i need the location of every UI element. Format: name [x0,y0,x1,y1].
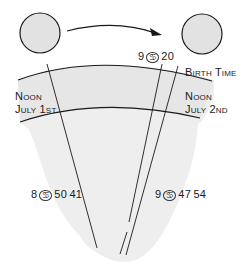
seconds-value: 41 [69,188,82,200]
position-july2-label: 9♋47 54 [155,188,206,201]
minutes-value: 20 [161,50,174,62]
noon-july1-label-line2: July 1st [15,103,56,115]
degree-value: 8 [31,188,37,200]
sun-motion-diagram [0,0,242,272]
birth-position-label: 9♋20 [138,50,174,63]
seconds-value: 54 [193,188,206,200]
noon-july2-label-line2: July 2nd [185,103,228,115]
noon-july2-label-line1: Noon [185,90,212,102]
sun-circle-left [20,13,60,53]
minutes-value: 50 [54,188,67,200]
position-july1-label: 8♋50 41 [31,188,82,201]
degree-value: 9 [138,50,144,62]
cancer-sign-icon: ♋ [146,52,159,63]
cancer-sign-icon: ♋ [39,190,52,201]
motion-arrow [67,25,155,33]
minutes-value: 47 [178,188,191,200]
noon-july1-label-line1: Noon [15,90,42,102]
birth-time-label: Birth Time [185,66,237,78]
arrowhead-icon [150,28,162,36]
degree-value: 9 [155,188,161,200]
sun-circle-right [182,14,222,54]
cancer-sign-icon: ♋ [163,190,176,201]
